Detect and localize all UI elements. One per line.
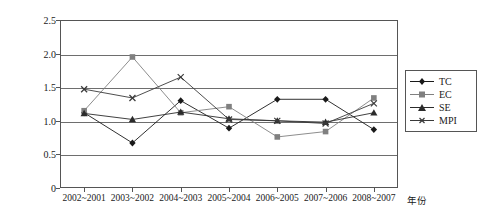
series-se: [81, 108, 378, 124]
y-tick-label: 2.0: [16, 48, 56, 59]
y-axis: 00.51.01.52.02.5: [8, 20, 56, 188]
x-tick-mark: [84, 188, 85, 192]
legend-label-se: SE: [439, 101, 451, 114]
x-tick-label: 2007~2006: [304, 193, 347, 203]
legend-item-tc: TC: [409, 75, 473, 88]
data-point-square: [130, 54, 136, 60]
x-axis-labels: 2002~20012003~20022004~20032005~20042006…: [0, 193, 470, 213]
data-point-triangle: [370, 109, 377, 115]
data-point-diamond: [371, 126, 377, 133]
y-tick-label: 0: [16, 183, 56, 194]
data-point-square: [323, 129, 329, 135]
data-point-diamond: [226, 125, 232, 132]
legend-item-mpi: MPI: [409, 114, 473, 127]
legend-swatch-triangle-icon: [409, 101, 435, 114]
legend-swatch-cross-icon: [409, 114, 435, 127]
legend-label-tc: TC: [439, 75, 452, 88]
x-tick-mark: [326, 188, 327, 192]
legend-label-ec: EC: [439, 88, 452, 101]
data-point-cross: [371, 100, 377, 106]
x-tick-label: 2004~2003: [159, 193, 202, 203]
legend-swatch-square-icon: [409, 88, 435, 101]
x-tick-label: 2008~2007: [352, 193, 395, 203]
x-tick-label: 2003~2002: [111, 193, 154, 203]
legend-item-se: SE: [409, 101, 473, 114]
x-tick-mark: [277, 188, 278, 192]
y-tick-label: 1.0: [16, 115, 56, 126]
y-tick-label: 0.5: [16, 149, 56, 160]
x-tick-mark: [181, 188, 182, 192]
x-tick-mark: [229, 188, 230, 192]
x-tick-label: 2002~2001: [63, 193, 106, 203]
data-point-diamond: [274, 96, 280, 103]
x-tick-mark: [132, 188, 133, 192]
y-tick-label: 1.5: [16, 82, 56, 93]
x-axis-title: 年份: [407, 193, 427, 207]
legend-label-mpi: MPI: [439, 114, 457, 127]
legend-swatch-diamond-icon: [409, 75, 435, 88]
series-layer: [60, 20, 398, 188]
data-point-square: [371, 95, 377, 101]
x-tick-mark: [374, 188, 375, 192]
x-tick-label: 2005~2004: [207, 193, 250, 203]
chart-figure: 00.51.01.52.02.5 2002~20012003~20022004~…: [0, 0, 491, 218]
data-point-diamond: [322, 96, 328, 103]
legend-item-ec: EC: [409, 88, 473, 101]
y-tick-label: 2.5: [16, 15, 56, 26]
data-point-square: [274, 134, 280, 140]
legend: TC EC SE MPI: [405, 70, 477, 132]
x-tick-label: 2006~2005: [256, 193, 299, 203]
data-point-square: [226, 104, 232, 110]
data-point-cross: [178, 74, 184, 80]
